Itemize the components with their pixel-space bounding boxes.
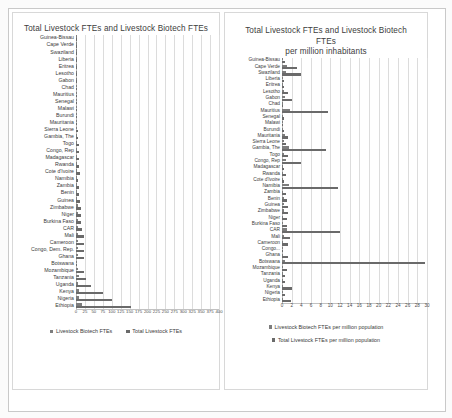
category-label: Nigeria	[225, 291, 282, 296]
chart-row: Cote d'Ivoire	[13, 168, 219, 175]
category-label: Burkina Faso	[225, 222, 282, 227]
bar-group	[76, 211, 219, 218]
bar-total	[282, 231, 340, 233]
chart-row: Congo, Rep	[13, 147, 219, 154]
bar-total	[76, 193, 79, 196]
x-tick-label: 250	[162, 310, 169, 314]
bar-total	[76, 102, 77, 105]
category-label: Zambia	[13, 183, 76, 188]
category-label: Mauritania	[13, 120, 76, 125]
bar-total	[282, 143, 286, 145]
category-label: Benin	[225, 197, 282, 202]
bar-group	[76, 147, 219, 154]
bar-total	[282, 92, 288, 94]
category-label: Kenya	[13, 289, 76, 294]
bar-total	[76, 158, 79, 161]
chart-row: Swaziland	[13, 49, 219, 56]
gridline	[219, 35, 220, 310]
bar-group	[76, 49, 219, 56]
bar-group	[76, 246, 219, 253]
x-tick-label: 75	[100, 310, 105, 314]
category-label: CAR	[13, 226, 76, 231]
bar-total	[282, 80, 284, 82]
chart-row: Togo	[13, 140, 219, 147]
bar-group	[76, 98, 219, 105]
bar-total	[76, 66, 77, 69]
bar-group	[76, 204, 219, 211]
chart-row: Tanzania	[13, 274, 219, 281]
bar-total	[282, 275, 285, 277]
bar-group	[76, 42, 219, 49]
category-label: Mauritius	[225, 109, 282, 114]
bar-group	[76, 302, 219, 309]
bar-total	[282, 73, 301, 75]
x-tick-label: 375	[206, 310, 213, 314]
bar-total	[76, 271, 84, 274]
category-label: Gabon	[225, 96, 282, 101]
x-tick-label: 20	[376, 304, 381, 309]
x-tick-label: 200	[144, 310, 151, 314]
category-label: Swaziland	[225, 71, 282, 76]
category-label: Cape Verde	[13, 42, 76, 47]
bar-total	[282, 180, 284, 182]
bar-total	[282, 124, 283, 126]
legend-per-million: Livestock Biotech FTEs per million popul…	[225, 324, 427, 343]
bar-total	[76, 137, 78, 140]
bar-group	[76, 35, 219, 42]
chart-row: Liberia	[13, 56, 219, 63]
chart-row: Namibia	[13, 175, 219, 182]
x-tick-label: 275	[171, 310, 178, 314]
category-label: Chad	[225, 102, 282, 107]
x-tick-label: 50	[91, 310, 96, 314]
x-tick-label: 14	[347, 304, 352, 309]
legend-label: Total Livestock FTEs	[132, 328, 182, 334]
bar-total	[76, 52, 77, 55]
bar-total	[76, 228, 82, 231]
x-tick-label: 10	[328, 304, 333, 309]
category-label: Malawi	[13, 106, 76, 111]
bar-total	[282, 136, 288, 138]
legend-item-biotech: Livestock Biotech FTEs	[50, 328, 112, 334]
chart-row: Gabon	[13, 77, 219, 84]
tick-container: 024681012141618202224262830	[282, 303, 427, 314]
tick-container: 0255075100125150175200225250275300325350…	[76, 309, 219, 320]
chart-title-line-3: per million inhabitants	[285, 47, 367, 56]
bar-rows-absolute: Guinea-BissauCape VerdeSwazilandLiberiaE…	[13, 35, 219, 310]
x-tick-label: 125	[117, 310, 124, 314]
bar-group	[76, 274, 219, 281]
category-label: Cape Verde	[225, 65, 282, 70]
bar-total	[76, 257, 84, 260]
chart-row: Benin	[13, 190, 219, 197]
bar-group	[76, 77, 219, 84]
category-label: Guinea	[13, 198, 76, 203]
bar-total	[282, 250, 283, 252]
chart-row: Ghana	[13, 253, 219, 260]
x-tick-label: 100	[108, 310, 115, 314]
chart-title-per-million: Total Livestock FTEs and Livestock Biote…	[225, 26, 427, 58]
chart-row: Nigeria	[13, 295, 219, 302]
bar-total	[282, 86, 284, 88]
bar-rows-per-million: Guinea-BissauCape VerdeSwazilandLiberiaE…	[225, 58, 427, 304]
chart-row: Cameroon	[13, 239, 219, 246]
legend-absolute: Livestock Biotech FTEs Total Livestock F…	[13, 328, 219, 334]
chart-row: Ethiopia	[13, 302, 219, 309]
bar-total	[282, 294, 285, 296]
bar-total	[282, 111, 328, 113]
category-label: Mauritius	[13, 92, 76, 97]
category-label: Gambia, The	[13, 134, 76, 139]
category-label: Tanzania	[225, 272, 282, 277]
category-label: Burkina Faso	[13, 219, 76, 224]
legend-swatch-icon	[126, 330, 130, 334]
category-label: Rwanda	[13, 162, 76, 167]
chart-row: Gambia, The	[13, 133, 219, 140]
category-label: Eritrea	[225, 83, 282, 88]
category-label: Eritrea	[13, 64, 76, 69]
bar-total	[282, 206, 288, 208]
category-label: Mozambique	[13, 268, 76, 273]
chart-row: CAR	[13, 225, 219, 232]
legend-label: Total Livestock FTEs per million populat…	[278, 337, 380, 343]
bar-total	[282, 162, 301, 164]
x-tick-label: 22	[386, 304, 391, 309]
bar-group	[76, 133, 219, 140]
legend-swatch-icon	[272, 338, 276, 342]
